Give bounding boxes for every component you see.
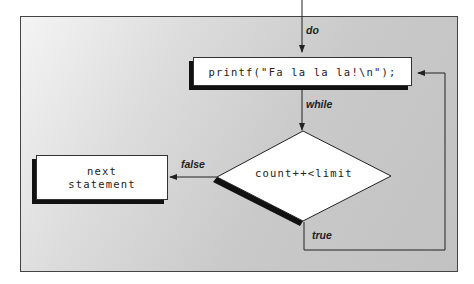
condition-text: count++<limit (255, 167, 353, 179)
connector-lines (0, 0, 474, 284)
printf-statement-box: printf("Fa la la la!\n"); (193, 57, 412, 86)
true-label: true (312, 229, 332, 241)
false-label: false (181, 158, 205, 170)
next-statement-line1: next (87, 165, 117, 178)
printf-statement-text: printf("Fa la la la!\n"); (208, 66, 396, 78)
while-label: while (306, 98, 332, 110)
next-statement-box: next statement (36, 155, 168, 200)
do-label: do (306, 24, 319, 36)
next-statement-line2: statement (68, 178, 136, 191)
